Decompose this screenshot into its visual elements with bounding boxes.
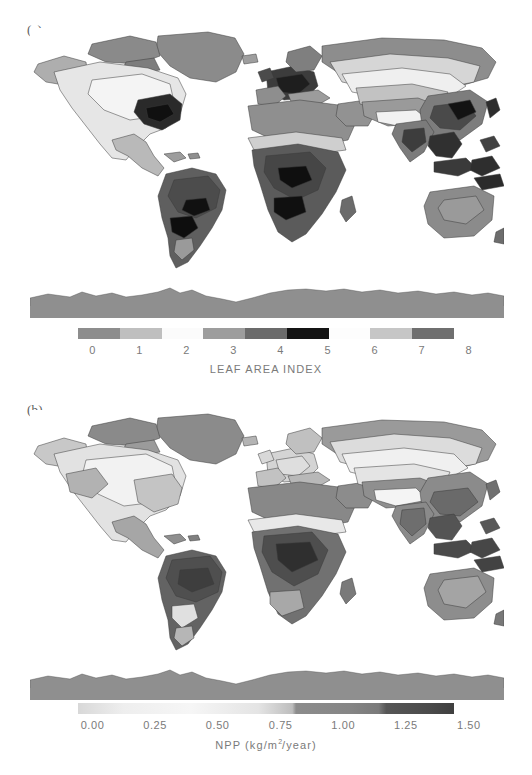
figure-root: (a) — [0, 0, 532, 775]
npp-caption-prefix: NPP (kg/m — [215, 739, 278, 751]
npp-caption: NPP (kg/m2/year) — [0, 738, 532, 751]
panel-a: (a) — [0, 0, 532, 390]
cbar-tick-a-2: 2 — [183, 344, 190, 356]
npp-tick-row: 0.00 0.25 0.50 0.75 1.00 1.25 1.50 — [56, 719, 476, 735]
antarctica-band-a — [30, 284, 504, 318]
cbar-tick-a-7: 7 — [418, 344, 425, 356]
cbar-seg-0 — [78, 328, 120, 339]
npp-map — [30, 410, 504, 700]
cbar-seg-8 — [412, 328, 454, 339]
cbar-seg-4 — [245, 328, 287, 339]
world-map-svg-a — [30, 28, 504, 318]
cbar-tick-a-1: 1 — [136, 344, 143, 356]
cbar-seg-7 — [370, 328, 412, 339]
panel-b: (b) — [0, 385, 532, 775]
leaf-area-index-caption: LEAF AREA INDEX — [0, 363, 532, 375]
cbar-tick-b-1: 0.25 — [143, 719, 167, 731]
cbar-tick-b-0: 0.00 — [81, 719, 105, 731]
cbar-tick-a-0: 0 — [89, 344, 96, 356]
leaf-area-index-colorbar — [78, 328, 454, 339]
cbar-seg-2 — [162, 328, 204, 339]
npp-caption-suffix: /year) — [282, 739, 317, 751]
leaf-area-index-map — [30, 28, 504, 318]
world-map-svg-b — [30, 410, 504, 700]
cbar-seg-6 — [329, 328, 371, 339]
colorbar-block-a: 0 1 2 3 4 5 6 7 8 LEAF AREA INDEX — [0, 328, 532, 375]
cbar-tick-b-5: 1.25 — [394, 719, 418, 731]
cbar-tick-b-3: 0.75 — [269, 719, 293, 731]
cbar-tick-a-6: 6 — [371, 344, 378, 356]
cbar-seg-3 — [203, 328, 245, 339]
map-canvas-a — [30, 28, 504, 318]
cbar-tick-a-4: 4 — [277, 344, 284, 356]
cbar-seg-5 — [287, 328, 329, 339]
cbar-tick-a-3: 3 — [230, 344, 237, 356]
leaf-area-index-tick-row: 0 1 2 3 4 5 6 7 8 — [56, 344, 476, 360]
map-canvas-b — [30, 410, 504, 700]
antarctica-band-b — [30, 666, 504, 700]
cbar-tick-b-4: 1.00 — [331, 719, 355, 731]
cbar-tick-b-6: 1.50 — [457, 719, 481, 731]
cbar-tick-b-2: 0.50 — [206, 719, 230, 731]
npp-colorbar — [78, 703, 454, 714]
cbar-tick-a-5: 5 — [324, 344, 331, 356]
colorbar-block-b: 0.00 0.25 0.50 0.75 1.00 1.25 1.50 NPP (… — [0, 703, 532, 751]
cbar-tick-a-8: 8 — [466, 344, 473, 356]
cbar-seg-1 — [120, 328, 162, 339]
